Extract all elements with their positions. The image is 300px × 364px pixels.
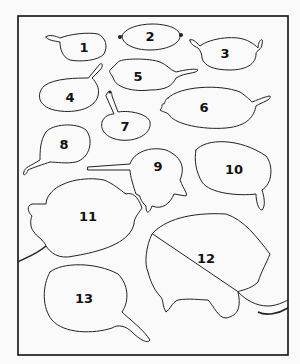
shape-13: 13 <box>44 265 150 342</box>
cord-11 <box>18 246 46 262</box>
label-1: 1 <box>79 40 88 55</box>
shape-2: 2 <box>118 24 183 50</box>
knob-2 <box>118 35 122 39</box>
label-13: 13 <box>75 291 93 306</box>
label-8: 8 <box>59 137 68 152</box>
label-7: 7 <box>120 119 129 134</box>
shape-1: 1 <box>46 33 106 61</box>
shape-10: 10 <box>195 142 271 210</box>
shape-12: 12 <box>146 214 288 318</box>
shape-9: 9 <box>88 149 187 212</box>
label-6: 6 <box>199 100 208 115</box>
shape-3: 3 <box>190 38 262 70</box>
shape-11: 11 <box>18 179 142 262</box>
label-5: 5 <box>133 69 142 84</box>
label-12: 12 <box>197 251 215 266</box>
label-10: 10 <box>225 162 243 177</box>
knob-2b <box>179 33 183 37</box>
shape-6: 6 <box>160 87 270 128</box>
diagram-canvas: 1 2 3 4 5 6 7 8 9 10 <box>0 0 300 364</box>
label-9: 9 <box>153 159 162 174</box>
shape-4: 4 <box>39 63 102 111</box>
label-3: 3 <box>220 46 229 61</box>
knob-7 <box>108 90 111 93</box>
label-4: 4 <box>65 90 74 105</box>
shape-8: 8 <box>23 125 90 175</box>
shape-5: 5 <box>109 59 198 91</box>
label-2: 2 <box>145 29 154 44</box>
cord-12 <box>258 308 288 314</box>
shape-7: 7 <box>102 90 151 140</box>
label-11: 11 <box>79 209 97 224</box>
